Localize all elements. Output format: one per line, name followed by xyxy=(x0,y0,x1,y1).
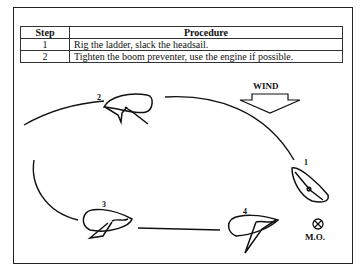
mob-label: M.O. xyxy=(305,232,325,242)
crosshair-circle-icon xyxy=(313,219,323,229)
wind-label: WIND xyxy=(253,81,279,91)
boat-position-3 xyxy=(83,209,132,238)
wind-arrow-icon xyxy=(240,94,300,113)
position-label-2: 2 xyxy=(97,93,101,102)
course-track xyxy=(24,97,294,230)
position-label-4: 4 xyxy=(243,207,247,216)
boat-position-2 xyxy=(104,94,152,124)
position-label-1: 1 xyxy=(304,158,308,167)
boat-position-1 xyxy=(292,168,328,202)
position-label-3: 3 xyxy=(102,200,106,209)
maneuver-diagram: WIND 2 1 3 4 M.O. xyxy=(0,0,362,273)
boat-position-4 xyxy=(229,215,278,253)
